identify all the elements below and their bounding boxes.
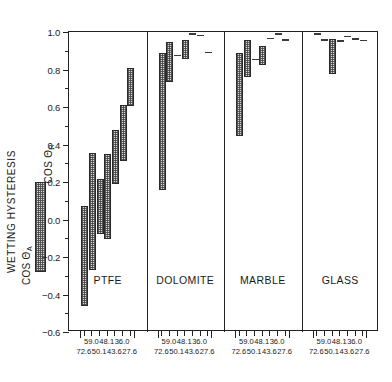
x-group-separator <box>235 331 236 338</box>
y-tick-minor <box>65 163 69 164</box>
x-tick-label: 36.0 <box>347 337 362 346</box>
bar-marble-48.1 <box>259 46 266 65</box>
plot-area: 1.00.80.60.40.20.0−0.2−0.4−0.6 PTFEDOLOM… <box>68 31 378 331</box>
y-tick-label: −0.6 <box>42 327 60 338</box>
x-tick <box>192 331 193 336</box>
x-tick <box>332 331 333 336</box>
x-tick <box>254 331 255 336</box>
y-tick-minor <box>65 88 69 89</box>
y-tick-label: 0.0 <box>47 214 60 225</box>
bar-glass-72.6 <box>314 33 321 35</box>
y-tick-minor <box>65 201 69 202</box>
legend: COS ΘR COS ΘA <box>21 150 65 310</box>
bar-marble-43.6 <box>267 38 274 40</box>
bar-dolomite-59.0 <box>166 42 173 81</box>
x-tick-label: 72.6 <box>309 347 324 356</box>
x-tick <box>130 331 131 336</box>
y-tick-label: 0.4 <box>47 139 60 150</box>
x-tick-label: 43.6 <box>185 347 200 356</box>
bar-marble-59.0 <box>244 40 251 78</box>
x-tick <box>262 331 263 336</box>
x-tick <box>177 331 178 336</box>
x-tick-label: 59.0 <box>239 337 254 346</box>
bar-dolomite-43.6 <box>189 33 196 35</box>
y-tick-label: 1.0 <box>47 27 60 38</box>
y-tick-label: −0.4 <box>42 289 60 300</box>
x-tick-label: 72.6 <box>231 347 246 356</box>
bar-ptfe-50.1 <box>97 179 104 233</box>
y-tick <box>63 182 69 183</box>
y-tick <box>63 107 69 108</box>
x-tick-label: 48.1 <box>99 337 114 346</box>
x-group-separator <box>289 331 290 338</box>
x-tick-label: 36.0 <box>270 337 285 346</box>
x-tick <box>246 331 247 336</box>
bar-glass-59.0 <box>321 39 328 41</box>
bar-marble-50.1 <box>252 59 259 61</box>
x-tick <box>362 331 363 336</box>
bar-dolomite-36.0 <box>197 35 204 37</box>
y-tick-label: 0.6 <box>47 102 60 113</box>
x-tick <box>169 331 170 336</box>
panel-title-dolomite: DOLOMITE <box>156 274 214 286</box>
y-tick-minor <box>65 238 69 239</box>
x-tick-label: 48.1 <box>177 337 192 346</box>
x-tick-label: 50.1 <box>247 347 262 356</box>
y-axis-title: WETTING HYSTERESIS <box>6 150 17 273</box>
x-tick <box>99 331 100 336</box>
y-tick-minor <box>65 51 69 52</box>
x-tick <box>107 331 108 336</box>
x-tick-label: 59.0 <box>84 337 99 346</box>
x-tick-label: 36.0 <box>192 337 207 346</box>
x-tick-label: 48.1 <box>332 337 347 346</box>
x-tick <box>84 331 85 336</box>
x-group-separator <box>313 331 314 338</box>
x-tick <box>122 331 123 336</box>
x-tick-label: 36.0 <box>115 337 130 346</box>
bar-glass-43.6 <box>344 36 351 38</box>
panel-title-ptfe: PTFE <box>94 274 122 286</box>
x-tick-label: 27.6 <box>355 347 370 356</box>
x-group-separator <box>366 331 367 338</box>
x-tick <box>114 331 115 336</box>
y-tick <box>63 220 69 221</box>
panel-title-marble: MARBLE <box>240 274 286 286</box>
bar-ptfe-72.6 <box>81 206 88 305</box>
bar-dolomite-27.6 <box>205 52 212 54</box>
bar-glass-27.6 <box>360 40 367 42</box>
x-tick <box>347 331 348 336</box>
x-tick-label: 50.1 <box>169 347 184 356</box>
bar-ptfe-59.0 <box>89 153 96 270</box>
x-tick-label: 27.6 <box>122 347 137 356</box>
bar-dolomite-72.6 <box>159 53 166 191</box>
x-tick-label: 43.6 <box>262 347 277 356</box>
x-tick <box>324 331 325 336</box>
bar-marble-27.6 <box>282 39 289 41</box>
x-tick <box>161 331 162 336</box>
y-tick <box>63 32 69 33</box>
x-tick <box>91 331 92 336</box>
x-tick <box>339 331 340 336</box>
panel-title-glass: GLASS <box>322 274 359 286</box>
bar-dolomite-48.1 <box>182 40 189 59</box>
bar-glass-36.0 <box>352 38 359 40</box>
x-tick-label: 27.6 <box>200 347 215 356</box>
panel-divider <box>147 32 148 332</box>
x-group-separator <box>211 331 212 338</box>
y-tick <box>63 257 69 258</box>
bar-ptfe-36.0 <box>120 105 127 161</box>
chart-root: WETTING HYSTERESIS COS ΘR COS ΘA 1.00.80… <box>0 0 392 382</box>
panel-divider <box>302 32 303 332</box>
y-tick-minor <box>65 126 69 127</box>
legend-label-advancing: COS ΘA <box>21 246 34 285</box>
x-tick-label: 43.6 <box>340 347 355 356</box>
x-tick <box>200 331 201 336</box>
x-tick-label: 48.1 <box>254 337 269 346</box>
bar-dolomite-50.1 <box>174 55 181 57</box>
x-tick <box>184 331 185 336</box>
bar-ptfe-43.6 <box>112 130 119 183</box>
x-tick-label: 72.6 <box>154 347 169 356</box>
x-tick-label: 59.0 <box>317 337 332 346</box>
x-group-separator <box>158 331 159 338</box>
bar-glass-50.1 <box>329 39 336 75</box>
